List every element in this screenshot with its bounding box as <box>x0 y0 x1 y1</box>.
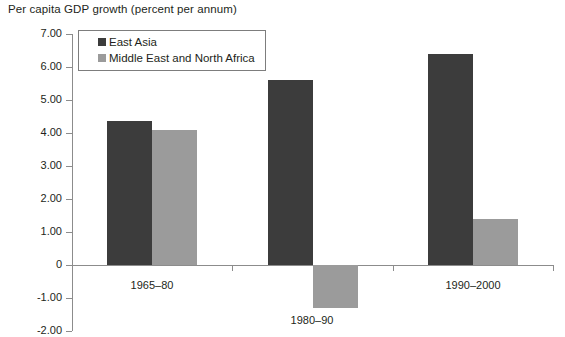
y-axis-tick-label: 6.00 <box>4 60 62 72</box>
bar <box>107 121 152 265</box>
legend-entry: Middle East and North Africa <box>98 52 255 64</box>
x-axis-category-label: 1980–90 <box>232 314 392 326</box>
legend-entry-label: Middle East and North Africa <box>109 52 255 64</box>
y-axis-tick <box>66 331 72 332</box>
y-axis-tick <box>66 232 72 233</box>
legend-entry: East Asia <box>98 36 157 48</box>
chart-legend: East Asia Middle East and North Africa <box>78 30 266 71</box>
y-axis-tick-label: -1.00 <box>4 291 62 303</box>
y-axis-tick <box>66 199 72 200</box>
y-axis-tick-label: 2.00 <box>4 192 62 204</box>
y-axis-tick-label: 3.00 <box>4 159 62 171</box>
x-axis-tick <box>232 265 233 271</box>
chart-figure: Per capita GDP growth (percent per annum… <box>0 0 565 337</box>
y-axis-tick <box>66 265 72 266</box>
y-axis-tick-label: 7.00 <box>4 27 62 39</box>
y-axis-tick-label: 5.00 <box>4 93 62 105</box>
x-axis-tick <box>553 265 554 271</box>
y-axis-tick <box>66 166 72 167</box>
y-axis-tick-label: -2.00 <box>4 324 62 336</box>
y-axis-tick-label: 0 <box>4 258 62 270</box>
y-axis-tick <box>66 133 72 134</box>
bar <box>313 265 358 308</box>
y-axis-tick <box>66 100 72 101</box>
legend-swatch-icon <box>98 54 106 62</box>
y-axis-tick <box>66 67 72 68</box>
x-axis-tick <box>393 265 394 271</box>
x-axis-category-label: 1965–80 <box>72 279 232 291</box>
bar <box>473 219 518 265</box>
y-axis-tick <box>66 298 72 299</box>
y-axis-tick-labels: 7.006.005.004.003.002.001.000-1.00-2.00 <box>0 0 62 337</box>
bar <box>152 130 197 265</box>
bar <box>428 54 473 265</box>
y-axis-tick <box>66 34 72 35</box>
y-axis-tick-label: 1.00 <box>4 225 62 237</box>
legend-entry-label: East Asia <box>109 36 157 48</box>
x-axis-category-label: 1990–2000 <box>393 279 553 291</box>
legend-swatch-icon <box>98 38 106 46</box>
bar <box>268 80 313 265</box>
y-axis-tick-label: 4.00 <box>4 126 62 138</box>
